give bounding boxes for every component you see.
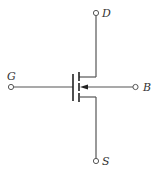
drain-wire xyxy=(79,16,96,77)
body-arrow-icon xyxy=(80,85,88,90)
drain-terminal[interactable] xyxy=(93,10,98,15)
source-label: S xyxy=(102,155,110,168)
source-terminal[interactable] xyxy=(93,158,98,163)
mosfet-diagram: D G B S xyxy=(0,0,156,173)
body-terminal[interactable] xyxy=(133,84,138,89)
gate-terminal[interactable] xyxy=(8,84,13,89)
source-wire xyxy=(79,97,96,158)
gate-label: G xyxy=(7,70,16,83)
body-label: B xyxy=(142,81,151,94)
drain-label: D xyxy=(101,7,111,20)
